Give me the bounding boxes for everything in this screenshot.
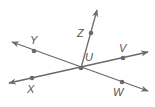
point-w [120,80,125,85]
label-x: X [26,83,35,95]
geometry-diagram: UZYVXW [0,0,155,107]
point-z [89,31,94,36]
point-u [79,66,84,71]
point-y [32,49,37,54]
labels-layer: UZYVXW [26,27,128,98]
label-w: W [113,86,125,98]
label-y: Y [30,34,38,46]
label-u: U [85,51,93,63]
label-v: V [119,42,128,54]
point-v [121,56,126,61]
label-z: Z [76,27,85,39]
lines-layer [9,10,148,91]
point-x [30,76,35,81]
